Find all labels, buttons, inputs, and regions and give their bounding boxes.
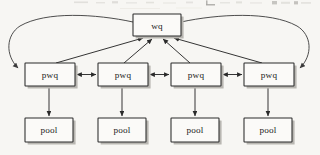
node-pool-1-label: pool xyxy=(40,125,57,135)
edge-wq-to-pwq-1-arc xyxy=(9,15,133,68)
node-pool-4-label: pool xyxy=(259,125,276,135)
node-pool-2[interactable]: pool xyxy=(98,118,149,145)
edge-pwq-3-to-wq xyxy=(163,39,190,63)
node-pool-3-label: pool xyxy=(186,125,203,135)
node-pool-4[interactable]: pool xyxy=(244,118,295,145)
node-wq[interactable]: wq xyxy=(133,14,184,39)
node-pwq-2[interactable]: pwq xyxy=(98,63,151,89)
node-pool-1[interactable]: pool xyxy=(25,118,76,145)
node-pwq-4-label: pwq xyxy=(261,70,278,80)
node-pwq-1-label: pwq xyxy=(42,70,59,80)
edge-pwq-4-to-wq xyxy=(174,38,262,63)
node-pwq-2-label: pwq xyxy=(115,70,132,80)
node-pwq-3[interactable]: pwq xyxy=(171,63,224,89)
diagonal-edges-group xyxy=(56,38,262,63)
diagram-canvas: wq pwq pwq pwq pwq pool xyxy=(0,0,320,155)
node-pwq-1[interactable]: pwq xyxy=(25,63,78,89)
vertical-edges-group xyxy=(49,86,268,116)
node-wq-label: wq xyxy=(151,21,163,31)
node-pool-3[interactable]: pool xyxy=(171,118,222,145)
edge-pwq-1-to-wq xyxy=(56,38,143,63)
edge-wq-to-pwq-4-arc xyxy=(181,15,309,68)
node-pwq-4[interactable]: pwq xyxy=(244,63,297,89)
node-pool-2-label: pool xyxy=(113,125,130,135)
node-pwq-3-label: pwq xyxy=(188,70,205,80)
diagram-root: wq pwq pwq pwq pwq pool xyxy=(0,0,320,155)
top-text-remnant xyxy=(74,0,311,9)
